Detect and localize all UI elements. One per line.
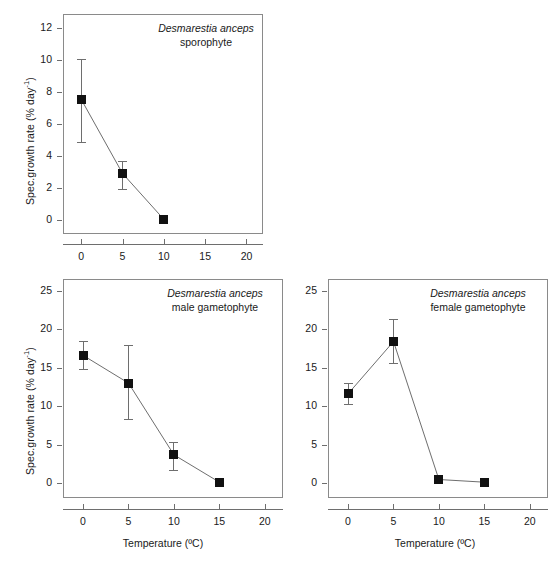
y-tick-mark — [57, 329, 62, 330]
x-tick-label: 5 — [114, 515, 142, 527]
y-tick-mark — [57, 483, 62, 484]
x-tick-mark — [530, 504, 531, 509]
y-tick-mark — [57, 220, 62, 221]
x-tick-label: 15 — [470, 515, 498, 527]
x-tick-label: 10 — [150, 250, 178, 262]
x-tick-mark — [174, 504, 175, 509]
data-point-marker — [79, 351, 88, 360]
y-tick-mark — [57, 188, 62, 189]
x-tick-mark — [81, 239, 82, 244]
error-bar-upper-cap — [79, 341, 88, 342]
y-tick-label: 10 — [23, 53, 52, 65]
y-tick-mark — [322, 329, 327, 330]
y-tick-label: 25 — [288, 284, 317, 296]
x-tick-label: 15 — [191, 250, 219, 262]
y-tick-label: 4 — [23, 149, 52, 161]
x-tick-label: 20 — [516, 515, 544, 527]
x-tick-mark — [484, 504, 485, 509]
data-line — [83, 355, 219, 482]
x-tick-label: 5 — [379, 515, 407, 527]
error-bar-upper-cap — [344, 383, 353, 384]
x-tick-label: 20 — [232, 250, 260, 262]
y-tick-label: 0 — [23, 476, 52, 488]
y-tick-label: 5 — [288, 438, 317, 450]
error-bar-lower-cap — [344, 404, 353, 405]
y-tick-label: 10 — [23, 399, 52, 411]
x-tick-mark — [265, 504, 266, 509]
error-bar-upper-cap — [124, 345, 133, 346]
x-tick-label: 0 — [69, 515, 97, 527]
y-tick-label: 10 — [288, 399, 317, 411]
y-tick-mark — [322, 291, 327, 292]
figure-canvas: Spec.growth rate (% day-1) Desmarestia a… — [0, 0, 556, 565]
error-bar-lower — [81, 99, 82, 141]
y-tick-label: 15 — [288, 361, 317, 373]
x-tick-label: 5 — [109, 250, 137, 262]
data-point-marker — [215, 478, 224, 487]
y-tick-label: 8 — [23, 85, 52, 97]
y-tick-label: 25 — [23, 284, 52, 296]
y-tick-mark — [322, 445, 327, 446]
y-tick-mark — [322, 406, 327, 407]
x-tick-mark — [439, 504, 440, 509]
panel-title-top: Desmarestia anceps sporophyte — [150, 22, 262, 49]
error-bar-lower-cap — [77, 142, 86, 143]
x-tick-mark — [246, 239, 247, 244]
y-tick-label: 0 — [23, 213, 52, 225]
y-tick-label: 6 — [23, 117, 52, 129]
data-point-marker — [159, 215, 168, 224]
x-axis-line — [63, 509, 283, 510]
data-point-marker — [344, 389, 353, 398]
y-tick-label: 20 — [288, 322, 317, 334]
y-tick-mark — [322, 483, 327, 484]
y-tick-mark — [57, 406, 62, 407]
error-bar-lower-cap — [118, 189, 127, 190]
x-tick-mark — [123, 239, 124, 244]
x-tick-label: 0 — [334, 515, 362, 527]
x-tick-mark — [128, 504, 129, 509]
error-bar-upper-cap — [118, 161, 127, 162]
panel-female-gametophyte: Desmarestia anceps female gametophyte Te… — [290, 268, 556, 565]
error-bar-lower-cap — [124, 419, 133, 420]
error-bar-lower-cap — [389, 363, 398, 364]
data-point-marker — [118, 169, 127, 178]
y-tick-label: 2 — [23, 181, 52, 193]
x-tick-label: 20 — [251, 515, 279, 527]
x-tick-label: 10 — [425, 515, 453, 527]
data-point-marker — [389, 337, 398, 346]
error-bar-lower-cap — [79, 369, 88, 370]
x-tick-mark — [393, 504, 394, 509]
error-bar-lower-cap — [169, 470, 178, 471]
error-bar-upper — [128, 345, 129, 384]
y-tick-mark — [322, 368, 327, 369]
panel-male-gametophyte: Spec.growth rate (% day-1) Desmarestia a… — [0, 268, 290, 565]
x-tick-label: 0 — [67, 250, 95, 262]
y-tick-mark — [57, 445, 62, 446]
data-line — [348, 342, 484, 483]
data-point-marker — [169, 450, 178, 459]
x-axis-label-bottom-left: Temperature (ºC) — [103, 537, 223, 549]
x-tick-mark — [219, 504, 220, 509]
y-tick-label: 15 — [23, 361, 52, 373]
x-axis-line — [328, 509, 548, 510]
y-tick-mark — [57, 28, 62, 29]
x-axis-label-bottom-right: Temperature (ºC) — [375, 537, 495, 549]
x-tick-mark — [164, 239, 165, 244]
y-tick-label: 20 — [23, 322, 52, 334]
y-tick-mark — [57, 124, 62, 125]
panel-sporophyte: Spec.growth rate (% day-1) Desmarestia a… — [0, 0, 290, 268]
data-point-marker — [124, 379, 133, 388]
y-tick-mark — [57, 60, 62, 61]
x-tick-mark — [348, 504, 349, 509]
data-line — [81, 99, 164, 219]
panel-title-bottom-left: Desmarestia anceps male gametophyte — [150, 287, 280, 314]
x-tick-label: 10 — [160, 515, 188, 527]
x-tick-label: 15 — [205, 515, 233, 527]
data-point-marker — [434, 475, 443, 484]
panel-title-bottom-right: Desmarestia anceps female gametophyte — [408, 287, 548, 314]
y-tick-mark — [57, 368, 62, 369]
error-bar-upper-cap — [389, 319, 398, 320]
error-bar-lower — [128, 383, 129, 419]
y-tick-mark — [57, 92, 62, 93]
y-tick-label: 5 — [23, 438, 52, 450]
